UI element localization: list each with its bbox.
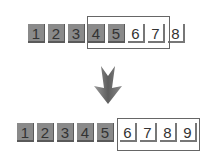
down-arrow-icon [88, 64, 128, 106]
tile-5: 5 [97, 123, 114, 142]
after-sequence: 1 2 3 4 5 6 7 8 9 [0, 0, 210, 40]
tile-2: 2 [37, 123, 54, 142]
tile-3: 3 [57, 123, 74, 142]
window-frame-after [117, 118, 200, 151]
tile-1: 1 [17, 123, 34, 142]
tile-4: 4 [77, 123, 94, 142]
